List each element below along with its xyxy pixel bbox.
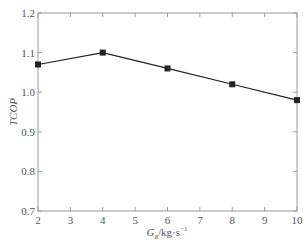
x-tick-label: 7 xyxy=(197,214,203,226)
square-marker xyxy=(35,61,41,67)
x-axis-ticks: 2345678910 xyxy=(35,13,303,226)
chart-canvas: 0.70.80.91.01.11.2 2345678910 TCOP Ga/kg… xyxy=(0,0,308,242)
x-tick-label: 8 xyxy=(230,214,236,226)
x-tick-label: 2 xyxy=(35,214,41,226)
y-tick-label: 0.7 xyxy=(21,205,35,217)
y-tick-label: 0.8 xyxy=(21,165,35,177)
x-axis-label: Ga/kg·s−1 xyxy=(147,225,188,241)
square-marker xyxy=(229,81,235,87)
x-tick-label: 10 xyxy=(292,214,304,226)
square-marker xyxy=(294,97,300,103)
x-tick-label: 6 xyxy=(165,214,171,226)
x-tick-label: 5 xyxy=(132,214,138,226)
x-tick-label: 9 xyxy=(262,214,268,226)
y-tick-label: 1.2 xyxy=(21,7,35,19)
plot-frame xyxy=(38,13,297,211)
tcop-line-chart: 0.70.80.91.01.11.2 2345678910 TCOP Ga/kg… xyxy=(0,0,308,242)
x-tick-label: 3 xyxy=(68,214,74,226)
series-line xyxy=(38,53,297,101)
square-marker xyxy=(100,50,106,56)
x-tick-label: 4 xyxy=(100,214,106,226)
y-tick-label: 0.9 xyxy=(21,126,35,138)
y-tick-label: 1.1 xyxy=(21,47,35,59)
y-axis-ticks: 0.70.80.91.01.11.2 xyxy=(21,7,297,217)
data-series xyxy=(35,50,300,104)
y-axis-label: TCOP xyxy=(7,98,19,126)
square-marker xyxy=(165,65,171,71)
y-tick-label: 1.0 xyxy=(21,86,35,98)
